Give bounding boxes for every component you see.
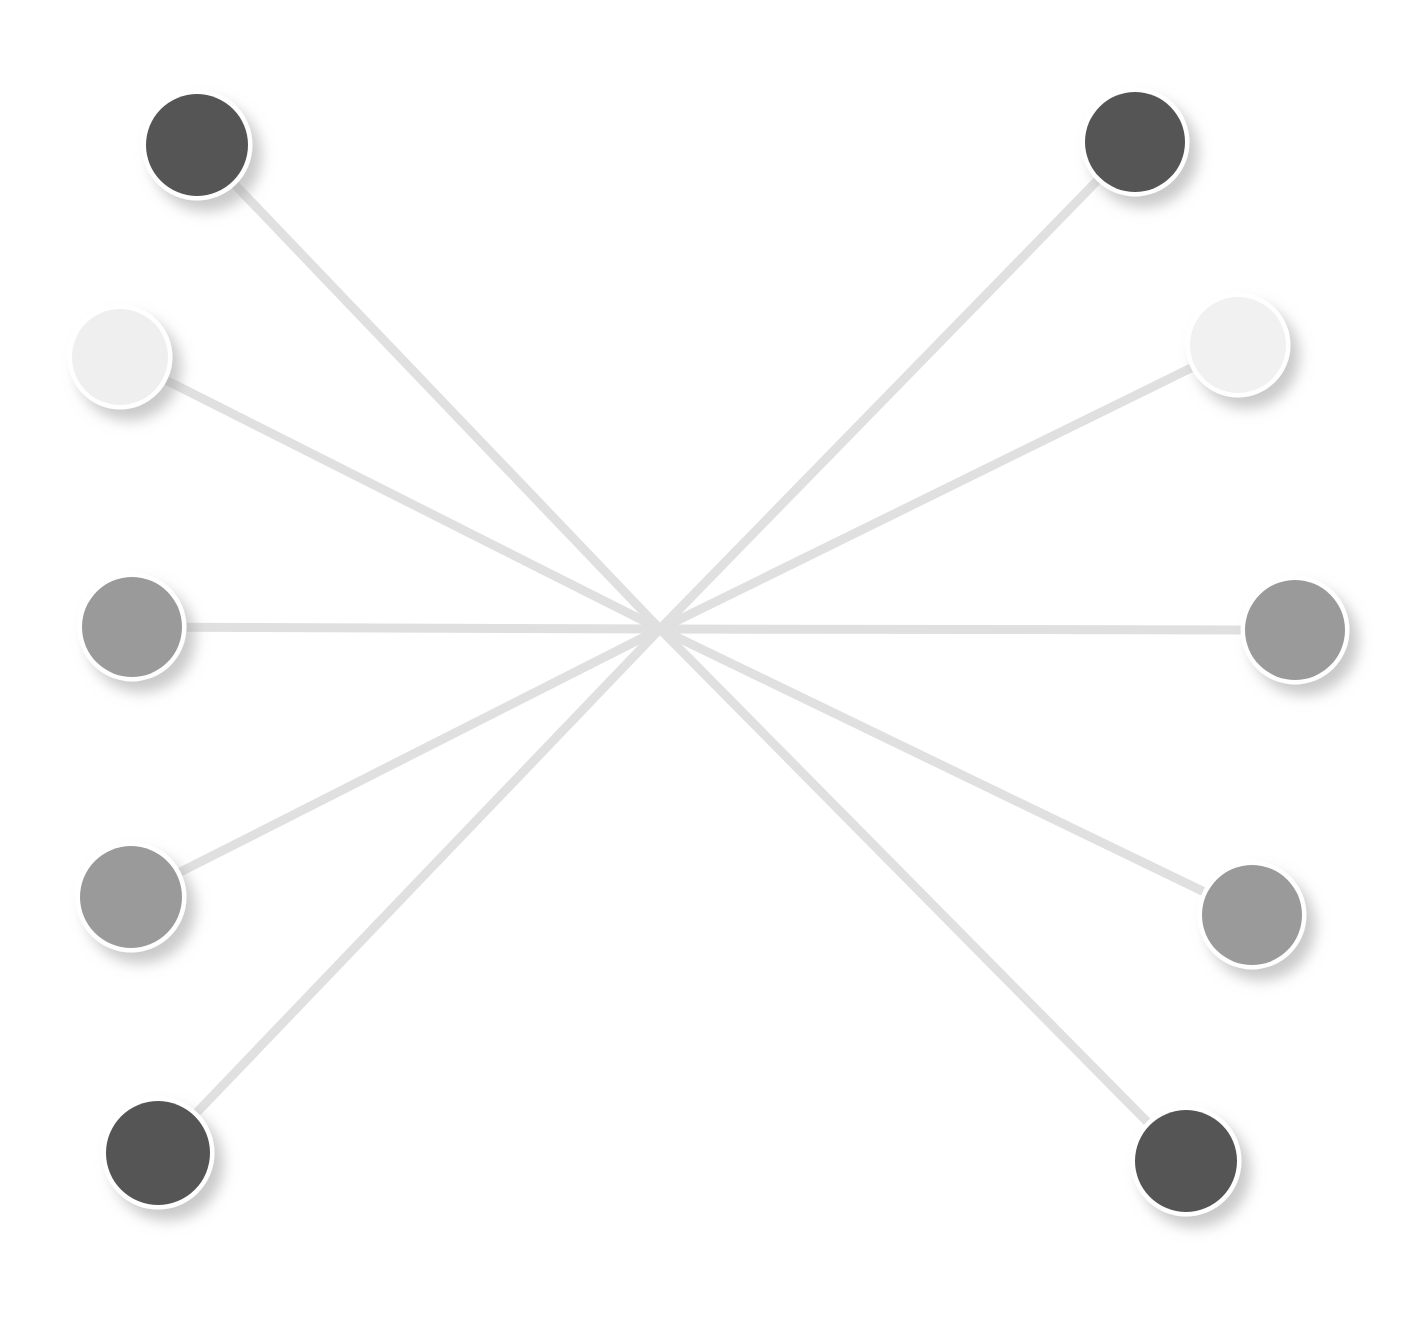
node-disc[interactable]: [1202, 865, 1302, 965]
graph-node[interactable]: [1081, 88, 1190, 197]
node-disc[interactable]: [80, 846, 182, 948]
graph-node[interactable]: [1198, 861, 1307, 970]
graph-edge: [234, 183, 660, 629]
node-disc[interactable]: [1245, 580, 1345, 680]
graph-edge: [184, 627, 660, 629]
graph-edge: [178, 629, 660, 873]
graph-node[interactable]: [1241, 576, 1350, 685]
graph-edge: [660, 367, 1193, 629]
node-disc[interactable]: [106, 1101, 210, 1205]
graph-canvas: [0, 0, 1421, 1319]
node-disc[interactable]: [1135, 1110, 1237, 1212]
node-disc[interactable]: [1085, 92, 1185, 192]
graph-edge: [660, 179, 1099, 629]
graph-node[interactable]: [102, 1097, 215, 1210]
node-disc[interactable]: [146, 94, 248, 196]
graph-edge: [660, 629, 1205, 892]
graph-edge: [660, 629, 1149, 1123]
node-disc[interactable]: [72, 309, 168, 405]
graph-node[interactable]: [142, 90, 253, 201]
node-disc[interactable]: [82, 577, 182, 677]
graph-node[interactable]: [1186, 293, 1291, 398]
graph-edge: [660, 629, 1243, 630]
node-disc[interactable]: [1190, 297, 1286, 393]
graph-node[interactable]: [1131, 1106, 1242, 1217]
graph-node[interactable]: [78, 573, 187, 682]
edge-layer: [165, 179, 1243, 1123]
graph-node[interactable]: [68, 305, 173, 410]
graph-edge: [165, 379, 660, 629]
graph-svg: [0, 0, 1421, 1319]
graph-edge: [195, 629, 660, 1114]
graph-node[interactable]: [76, 842, 187, 953]
